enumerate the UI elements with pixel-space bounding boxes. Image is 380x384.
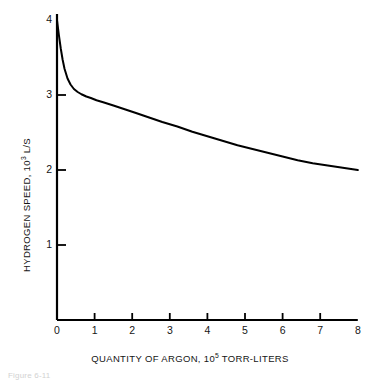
y-axis-title-exponent: 3 [20,156,27,160]
x-tick-label: 2 [122,324,142,336]
x-tick-label: 1 [85,324,105,336]
tick-marks-group [57,95,320,320]
y-axis-title-text: HYDROGEN SPEED, 10 [21,160,32,272]
x-tick-label: 6 [273,324,293,336]
data-curve [57,20,358,170]
axes-group [57,14,358,320]
x-tick-label: 7 [310,324,330,336]
y-axis-title-tail: L/S [21,138,32,156]
y-tick-label: 3 [36,88,52,100]
data-curve-group [57,20,358,170]
y-axis-title: HYDROGEN SPEED, 103 L/S [14,0,34,272]
x-axis-title-text: QUANTITY OF ARGON, 10 [91,353,215,364]
y-tick-label: 2 [36,163,52,175]
x-axis-title: QUANTITY OF ARGON, 105 TORR-LITERS [0,352,380,364]
x-tick-label: 4 [197,324,217,336]
y-tick-label: 4 [36,13,52,25]
x-tick-label: 3 [160,324,180,336]
x-axis-title-tail: TORR-LITERS [219,353,289,364]
y-tick-label: 1 [36,238,52,250]
figure-caption: Figure 6-11 [8,371,51,380]
x-tick-label: 0 [47,324,67,336]
figure-container: HYDROGEN SPEED, 103 L/S QUANTITY OF ARGO… [0,0,380,384]
x-tick-label: 5 [235,324,255,336]
x-tick-label: 8 [348,324,368,336]
